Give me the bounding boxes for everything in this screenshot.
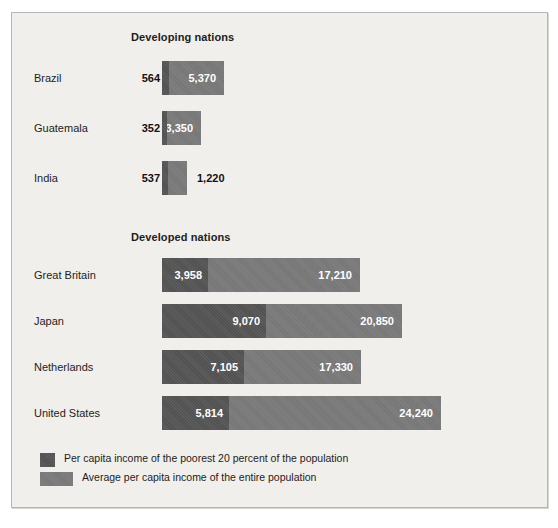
value-poor-guatemala: 352 bbox=[122, 122, 160, 134]
value-poor-india: 537 bbox=[122, 172, 160, 184]
row-label-india: India bbox=[34, 172, 58, 184]
value-poor-japan: 9,070 bbox=[232, 315, 260, 327]
group-title-developing: Developing nations bbox=[131, 31, 234, 43]
row-label-great-britain: Great Britain bbox=[34, 269, 96, 281]
chart-plot-area: Developing nations Brazil 564 5,370 Guat… bbox=[12, 13, 547, 507]
row-label-guatemala: Guatemala bbox=[34, 122, 88, 134]
chart-canvas: Developing nations Brazil 564 5,370 Guat… bbox=[0, 0, 558, 528]
bar-poor-brazil bbox=[162, 61, 169, 95]
bar-row-great-britain: Great Britain 17,210 3,958 bbox=[12, 258, 547, 292]
row-label-united-states: United States bbox=[34, 407, 100, 419]
bar-poor-japan: 9,070 bbox=[162, 304, 266, 338]
bar-group-brazil: 5,370 bbox=[162, 61, 224, 95]
legend-swatch-average-icon bbox=[40, 472, 73, 486]
legend-item-poor: Per capita income of the poorest 20 perc… bbox=[36, 451, 456, 470]
chart-legend: Per capita income of the poorest 20 perc… bbox=[36, 451, 456, 489]
row-label-japan: Japan bbox=[34, 315, 64, 327]
legend-swatch-poor-icon bbox=[40, 453, 55, 467]
group-title-developed: Developed nations bbox=[131, 231, 231, 243]
value-average-japan: 20,850 bbox=[360, 315, 394, 327]
legend-label-poor: Per capita income of the poorest 20 perc… bbox=[64, 452, 348, 464]
bar-poor-great-britain: 3,958 bbox=[162, 258, 208, 292]
value-average-guatemala: 3,350 bbox=[165, 122, 193, 134]
value-average-india: 1,220 bbox=[197, 172, 225, 184]
bar-poor-guatemala bbox=[162, 111, 167, 145]
bar-average-guatemala: 3,350 bbox=[162, 111, 201, 145]
bar-group-united-states: 24,240 5,814 bbox=[162, 396, 441, 430]
value-poor-great-britain: 3,958 bbox=[174, 269, 202, 281]
value-poor-united-states: 5,814 bbox=[195, 407, 223, 419]
bar-poor-united-states: 5,814 bbox=[162, 396, 229, 430]
bar-average-brazil: 5,370 bbox=[162, 61, 224, 95]
row-label-netherlands: Netherlands bbox=[34, 361, 93, 373]
value-average-brazil: 5,370 bbox=[188, 72, 216, 84]
bar-group-great-britain: 17,210 3,958 bbox=[162, 258, 360, 292]
bar-row-united-states: United States 24,240 5,814 bbox=[12, 396, 547, 430]
row-label-brazil: Brazil bbox=[34, 72, 62, 84]
bar-group-india bbox=[162, 161, 187, 195]
bar-group-japan: 20,850 9,070 bbox=[162, 304, 402, 338]
bar-row-india: India 537 1,220 bbox=[12, 161, 547, 195]
value-average-united-states: 24,240 bbox=[399, 407, 433, 419]
legend-label-average: Average per capita income of the entire … bbox=[82, 471, 316, 483]
bar-poor-india bbox=[162, 161, 168, 195]
value-poor-netherlands: 7,105 bbox=[210, 361, 238, 373]
value-average-great-britain: 17,210 bbox=[318, 269, 352, 281]
value-average-netherlands: 17,330 bbox=[319, 361, 353, 373]
bar-group-guatemala: 3,350 bbox=[162, 111, 201, 145]
bar-group-netherlands: 17,330 7,105 bbox=[162, 350, 361, 384]
bar-row-japan: Japan 20,850 9,070 bbox=[12, 304, 547, 338]
bar-row-netherlands: Netherlands 17,330 7,105 bbox=[12, 350, 547, 384]
chart-frame: Developing nations Brazil 564 5,370 Guat… bbox=[11, 12, 548, 508]
bar-row-brazil: Brazil 564 5,370 bbox=[12, 61, 547, 95]
bar-row-guatemala: Guatemala 352 3,350 bbox=[12, 111, 547, 145]
bar-poor-netherlands: 7,105 bbox=[162, 350, 244, 384]
value-poor-brazil: 564 bbox=[122, 72, 160, 84]
legend-item-average: Average per capita income of the entire … bbox=[36, 470, 456, 489]
